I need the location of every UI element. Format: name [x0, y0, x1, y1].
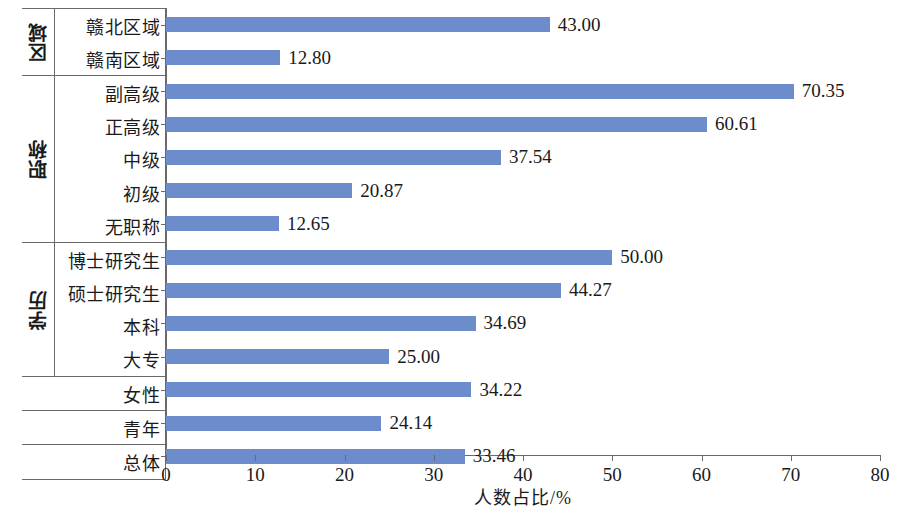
bar-value-label: 37.54 — [509, 146, 552, 168]
category-label: 女性 — [55, 377, 165, 410]
category-group: 总体 — [22, 444, 166, 479]
category-label: 无职称 — [55, 209, 165, 242]
category-axis-table: 区域赣北区域赣南区域职称副高级正高级中级初级无职称学历博士研究生硕士研究生本科大… — [22, 8, 166, 480]
bar-value-label: 20.87 — [360, 180, 403, 202]
bar-value-label: 70.35 — [802, 80, 845, 102]
group-items: 赣北区域赣南区域 — [55, 9, 166, 75]
group-label — [22, 445, 55, 478]
group-label: 职称 — [22, 76, 55, 242]
bar-value-label: 34.69 — [484, 312, 527, 334]
category-label: 正高级 — [55, 110, 165, 143]
bar-value-label: 12.65 — [287, 213, 330, 235]
category-label: 青年 — [55, 411, 165, 444]
category-label: 博士研究生 — [55, 243, 165, 276]
bar — [166, 283, 561, 298]
group-items: 博士研究生硕士研究生本科大专 — [55, 243, 166, 376]
category-group: 青年 — [22, 410, 166, 444]
x-axis-tick — [791, 455, 792, 461]
x-axis-tick — [523, 455, 524, 461]
category-group: 职称副高级正高级中级初级无职称 — [22, 75, 166, 242]
category-group: 女性 — [22, 376, 166, 410]
bar — [166, 84, 794, 99]
category-label: 赣南区域 — [55, 42, 165, 75]
category-label: 初级 — [55, 176, 165, 209]
bar — [166, 216, 279, 231]
bar-value-label: 25.00 — [397, 346, 440, 368]
x-axis-tick — [434, 455, 435, 461]
group-label — [22, 377, 55, 410]
group-label — [22, 411, 55, 444]
category-label: 赣北区域 — [55, 9, 165, 42]
category-label: 大专 — [55, 343, 165, 376]
bar-value-label: 44.27 — [569, 279, 612, 301]
group-items: 总体 — [55, 445, 166, 478]
bar — [166, 183, 352, 198]
group-items: 副高级正高级中级初级无职称 — [55, 76, 166, 242]
plot-area: 43.0012.8070.3560.6137.5420.8712.6550.00… — [166, 8, 880, 455]
group-label-text: 职称 — [29, 139, 48, 179]
group-items: 女性 — [55, 377, 166, 410]
category-label: 硕士研究生 — [55, 277, 165, 310]
category-label: 本科 — [55, 310, 165, 343]
x-axis-tick — [255, 455, 256, 461]
category-group: 区域赣北区域赣南区域 — [22, 8, 166, 75]
bar-value-label: 43.00 — [558, 14, 601, 36]
group-label-text: 区域 — [29, 22, 48, 62]
category-label: 总体 — [55, 445, 165, 478]
bar-value-label: 60.61 — [715, 113, 758, 135]
bar — [166, 449, 465, 464]
x-axis-tick — [880, 455, 881, 461]
bar — [166, 117, 707, 132]
group-label: 区域 — [22, 9, 55, 75]
bar-value-label: 34.22 — [479, 379, 522, 401]
x-axis-tick — [345, 455, 346, 461]
category-group: 学历博士研究生硕士研究生本科大专 — [22, 242, 166, 376]
bar-chart: 区域赣北区域赣南区域职称副高级正高级中级初级无职称学历博士研究生硕士研究生本科大… — [0, 0, 902, 506]
bar — [166, 50, 280, 65]
x-axis-title: 人数占比/% — [166, 483, 880, 506]
category-label: 副高级 — [55, 76, 165, 109]
group-label-text: 学历 — [29, 290, 48, 330]
bar — [166, 316, 476, 331]
bar-value-label: 50.00 — [620, 246, 663, 268]
bar — [166, 382, 471, 397]
group-items: 青年 — [55, 411, 166, 444]
bar — [166, 416, 381, 431]
x-axis-tick — [612, 455, 613, 461]
x-axis-tick — [166, 455, 167, 461]
bar — [166, 349, 389, 364]
category-label: 中级 — [55, 143, 165, 176]
x-axis-tick — [702, 455, 703, 461]
bar-value-label: 24.14 — [389, 412, 432, 434]
bar-value-label: 33.46 — [473, 445, 516, 467]
bar — [166, 250, 612, 265]
group-label: 学历 — [22, 243, 55, 376]
bar — [166, 150, 501, 165]
bar — [166, 17, 550, 32]
bar-value-label: 12.80 — [288, 47, 331, 69]
